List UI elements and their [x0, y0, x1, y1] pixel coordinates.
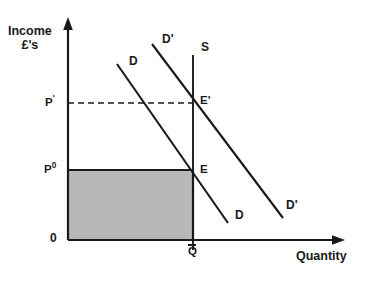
y-tick-label-p-zero: P0	[44, 163, 56, 176]
y-tick-p-zero-sup: 0	[52, 161, 57, 170]
curve-label-d-prime-top: D'	[162, 33, 174, 47]
curve-label-d-bottom: D	[235, 209, 244, 223]
y-axis-title: Income £'s	[8, 24, 52, 53]
curve-label-d-top: D	[129, 55, 138, 69]
y-axis-title-line1: Income	[8, 24, 52, 38]
x-axis-arrowhead	[332, 235, 345, 245]
curve-label-s: S	[201, 41, 209, 55]
x-tick-label-q-bar: Q	[188, 245, 197, 258]
q-bar-wrapper: Q	[188, 245, 197, 258]
curve-label-d-prime-bottom: D'	[286, 199, 298, 213]
point-label-e-prime: E'	[200, 94, 210, 107]
origin-label: 0	[50, 232, 57, 246]
x-axis-title: Quantity	[296, 249, 347, 263]
y-axis-title-line2: £'s	[8, 38, 52, 52]
y-axis-arrowhead	[63, 17, 73, 30]
y-tick-p-prime-base: P	[45, 96, 53, 108]
y-tick-p-prime-sup: '	[53, 94, 55, 103]
y-tick-label-p-prime: P'	[45, 96, 55, 109]
x-tick-q-base: Q	[188, 245, 197, 257]
y-tick-p-zero-base: P	[44, 163, 52, 175]
economics-diagram: Income £'s Quantity 0 P' P0 Q D D D' D' …	[0, 0, 367, 282]
point-label-e: E	[200, 163, 208, 176]
q-overbar	[188, 244, 196, 246]
revenue-rectangle	[68, 170, 193, 240]
